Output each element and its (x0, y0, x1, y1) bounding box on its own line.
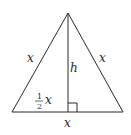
base-label: x (64, 116, 71, 130)
left-side-label: x (27, 51, 34, 65)
half-base-denominator: 2 (37, 102, 42, 111)
triangle-diagram: x x h x 1 2 x (0, 0, 131, 135)
height-label: h (70, 61, 78, 75)
triangle-figure: x x h x 1 2 x (0, 0, 131, 135)
right-angle-marker (68, 103, 77, 112)
half-base-var: x (45, 93, 52, 107)
half-base-numerator: 1 (37, 92, 42, 101)
right-side-label: x (99, 51, 106, 65)
